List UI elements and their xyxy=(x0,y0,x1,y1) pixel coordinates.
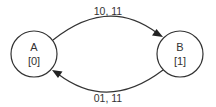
edge-a-to-b: 10, 11 xyxy=(53,5,163,40)
state-node-a-output: [0] xyxy=(28,55,40,67)
edge-b-to-a-path xyxy=(58,70,163,92)
state-node-b-output: [1] xyxy=(174,55,186,67)
state-node-b-circle xyxy=(157,31,203,77)
state-node-a-circle xyxy=(11,31,57,77)
edge-a-to-b-label: 10, 11 xyxy=(94,5,123,17)
edge-b-to-a: 01, 11 xyxy=(52,70,163,104)
state-node-a-name: A xyxy=(30,41,38,53)
state-node-b-name: B xyxy=(176,41,183,53)
edge-a-to-b-path xyxy=(53,16,157,40)
state-node-b: B [1] xyxy=(157,31,203,77)
state-diagram: 10, 11 01, 11 A [0] B [1] xyxy=(0,0,216,107)
state-node-a: A [0] xyxy=(11,31,57,77)
edge-b-to-a-label: 01, 11 xyxy=(94,92,123,104)
